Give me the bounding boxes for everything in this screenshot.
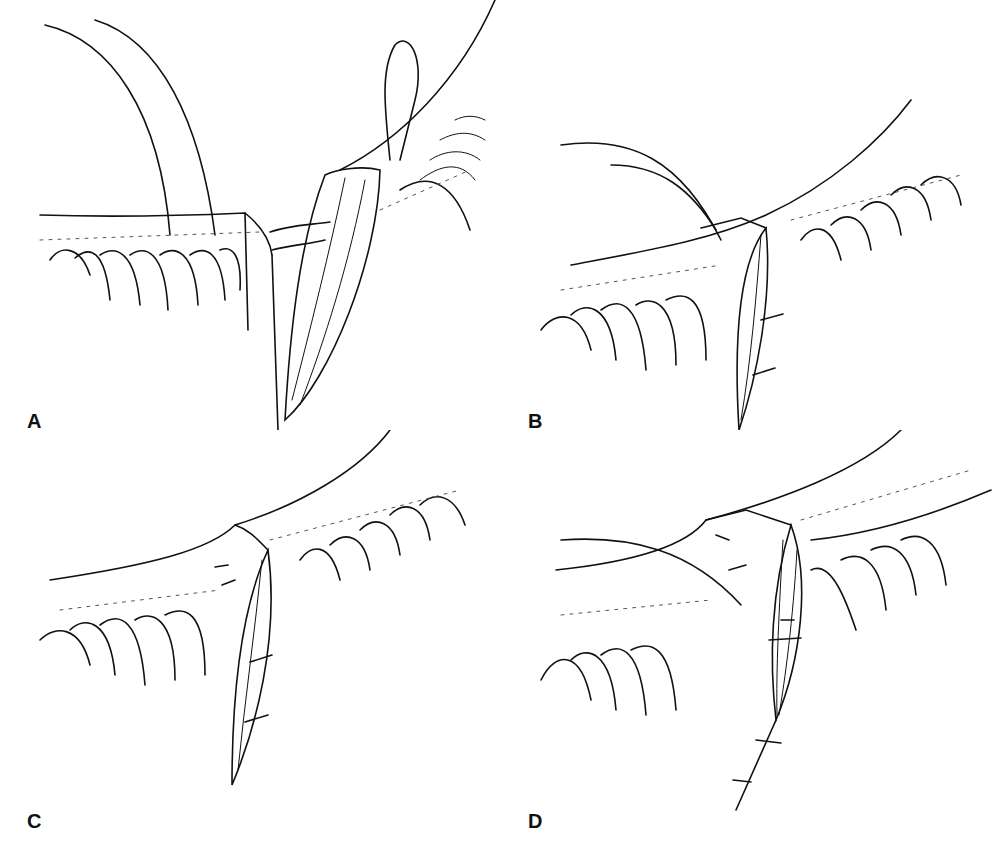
panel-a: A xyxy=(0,0,501,430)
panel-c: C xyxy=(0,430,501,843)
panel-c-drawing xyxy=(0,430,501,843)
panel-label-c: C xyxy=(27,810,41,833)
panel-label-d: D xyxy=(528,810,542,833)
panel-d-drawing xyxy=(501,430,1002,843)
panel-d: D xyxy=(501,430,1002,843)
panel-b-drawing xyxy=(501,0,1002,430)
panel-a-drawing xyxy=(0,0,501,430)
panel-b: B xyxy=(501,0,1002,430)
